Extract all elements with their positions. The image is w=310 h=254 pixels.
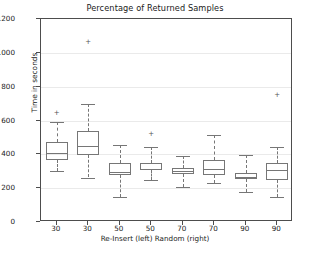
whisker-lower <box>277 180 278 197</box>
y-tick-mark <box>36 221 40 222</box>
y-tick-label: 0 <box>0 217 15 226</box>
y-tick-label: 1200 <box>0 14 15 23</box>
y-tick-label: 200 <box>0 183 15 192</box>
x-tick-mark <box>56 221 57 225</box>
box-plot-item: + <box>41 19 293 220</box>
x-tick-mark <box>182 221 183 225</box>
y-tick-label: 400 <box>0 149 15 158</box>
x-tick-mark <box>119 221 120 225</box>
y-tick-label: 1000 <box>0 48 15 57</box>
cap-lower <box>270 197 284 198</box>
x-axis-label: Re-Insert (left) Random (right) <box>0 234 310 243</box>
y-tick-label: 800 <box>0 82 15 91</box>
x-tick-mark <box>150 221 151 225</box>
outlier-marker: + <box>273 92 282 99</box>
x-tick-label: 90 <box>256 224 296 233</box>
x-tick-mark <box>245 221 246 225</box>
cap-upper <box>270 147 284 148</box>
x-tick-mark <box>87 221 88 225</box>
x-tick-mark <box>276 221 277 225</box>
chart-title: Percentage of Returned Samples <box>0 3 310 13</box>
plot-area: ++++ <box>40 18 292 221</box>
x-tick-mark <box>213 221 214 225</box>
median-line <box>266 170 288 171</box>
y-axis-label: Time in seconds <box>30 23 39 143</box>
whisker-upper <box>277 147 278 163</box>
box-iqr <box>266 163 288 180</box>
y-tick-label: 600 <box>0 116 15 125</box>
boxplot-figure: Percentage of Returned Samples Time in s… <box>0 0 310 254</box>
